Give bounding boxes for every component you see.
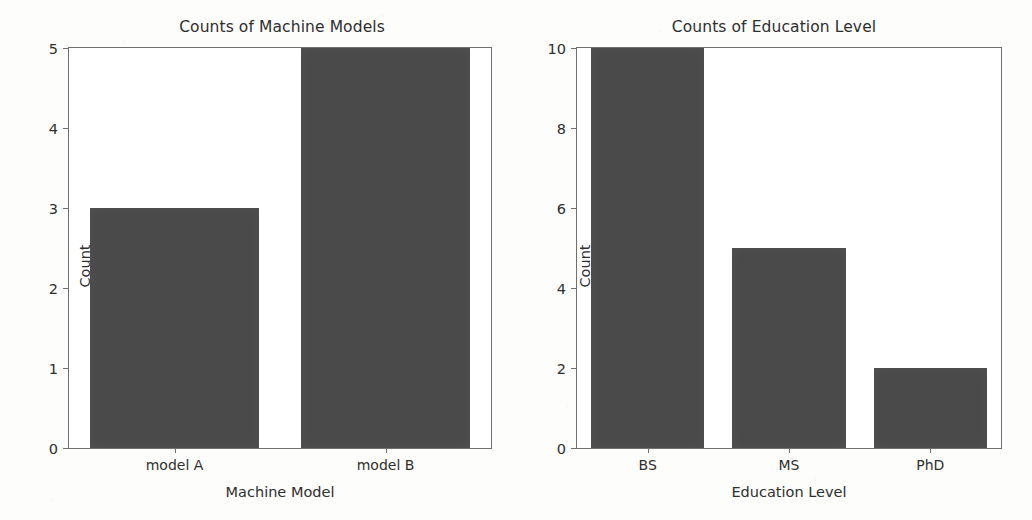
bar-ms[interactable] xyxy=(732,248,845,448)
y-tick: 6 xyxy=(571,208,577,209)
x-axis-label-machine-models: Machine Model xyxy=(69,484,491,500)
x-tick-label: BS xyxy=(639,457,657,473)
y-tick: 8 xyxy=(571,128,577,129)
y-tick-label: 5 xyxy=(49,41,58,57)
y-tick-label: 4 xyxy=(557,281,566,297)
bars-container-machine-models xyxy=(69,48,491,448)
bar-slot xyxy=(718,48,859,448)
x-tick xyxy=(648,448,649,453)
y-tick: 0 xyxy=(63,448,69,449)
chart-title-education-level: Counts of Education Level xyxy=(516,18,1032,36)
chart-panel-machine-models: Counts of Machine Models Count 012345 mo… xyxy=(0,0,516,520)
x-tick-label: model A xyxy=(146,457,204,473)
y-tick-label: 2 xyxy=(49,281,58,297)
y-tick-label: 6 xyxy=(557,201,566,217)
y-tick-label: 0 xyxy=(49,441,58,457)
bars-container-education-level xyxy=(577,48,1001,448)
y-tick: 2 xyxy=(63,288,69,289)
y-tick-label: 3 xyxy=(49,201,58,217)
x-tick xyxy=(930,448,931,453)
x-tick xyxy=(175,448,176,453)
y-tick-label: 8 xyxy=(557,121,566,137)
y-tick: 1 xyxy=(63,368,69,369)
bar-slot xyxy=(69,48,280,448)
y-tick-label: 10 xyxy=(548,41,566,57)
chart-title-machine-models: Counts of Machine Models xyxy=(0,18,540,36)
y-tick: 5 xyxy=(63,48,69,49)
bar-slot xyxy=(860,48,1001,448)
y-tick: 10 xyxy=(571,48,577,49)
bar-model-a[interactable] xyxy=(90,208,259,448)
y-tick: 4 xyxy=(63,128,69,129)
bar-phd[interactable] xyxy=(874,368,987,448)
chart-panel-education-level: Counts of Education Level Count 0246810 … xyxy=(516,0,1032,520)
y-tick: 3 xyxy=(63,208,69,209)
bar-slot xyxy=(280,48,491,448)
bar-bs[interactable] xyxy=(591,48,704,448)
x-tick-label: PhD xyxy=(916,457,944,473)
bar-model-b[interactable] xyxy=(301,48,470,448)
y-tick: 2 xyxy=(571,368,577,369)
x-tick-label: model B xyxy=(357,457,415,473)
y-tick-label: 4 xyxy=(49,121,58,137)
y-tick-label: 2 xyxy=(557,361,566,377)
plot-area-machine-models: Count 012345 model Amodel B Machine Mode… xyxy=(68,47,492,449)
x-tick-label: MS xyxy=(779,457,800,473)
plot-area-education-level: Count 0246810 BSMSPhD Education Level xyxy=(576,47,1002,449)
x-tick xyxy=(789,448,790,453)
y-tick-label: 1 xyxy=(49,361,58,377)
figure-bar-chart-pair: Counts of Machine Models Count 012345 mo… xyxy=(0,0,1032,520)
y-tick: 0 xyxy=(571,448,577,449)
x-axis-label-education-level: Education Level xyxy=(577,484,1001,500)
y-tick-label: 0 xyxy=(557,441,566,457)
x-tick xyxy=(386,448,387,453)
y-tick: 4 xyxy=(571,288,577,289)
bar-slot xyxy=(577,48,718,448)
